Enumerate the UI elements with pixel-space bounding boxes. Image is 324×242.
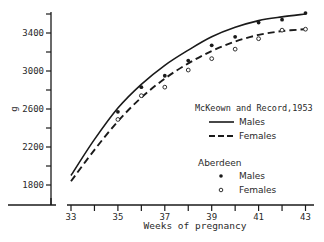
- x-axis-title: Weeks of pregnancy: [144, 220, 247, 231]
- legend-mckeown-females-label: Females: [239, 131, 277, 141]
- mckeown-males-curve: [71, 14, 306, 176]
- y-tick-label: 2600: [22, 104, 44, 114]
- x-axis: 333537394143 Weeks of pregnancy: [66, 205, 314, 231]
- x-tick-label: 35: [112, 212, 123, 222]
- aberdeen-females-point: [163, 85, 167, 89]
- x-tick-label: 43: [300, 212, 311, 222]
- birthweight-chart: 18002200260030003400 g 333537394143 Week…: [0, 0, 324, 242]
- plot-area: [71, 11, 307, 181]
- y-axis-unit-label: g: [9, 106, 19, 111]
- legend: McKeown and Record,1953 Males Females Ab…: [195, 103, 313, 195]
- legend-aberdeen-females-label: Females: [239, 185, 277, 195]
- aberdeen-males-point: [304, 11, 308, 15]
- aberdeen-males-point: [186, 59, 190, 63]
- y-axis: 18002200260030003400 g: [9, 12, 52, 205]
- legend-group-mckeown-title: McKeown and Record,1953: [195, 103, 313, 113]
- x-tick-label: 41: [253, 212, 264, 222]
- y-tick-label: 3400: [22, 28, 44, 38]
- aberdeen-males-point: [257, 21, 261, 25]
- aberdeen-females-point: [304, 27, 308, 31]
- legend-aberdeen-males-label: Males: [239, 171, 265, 181]
- aberdeen-males-point: [280, 18, 284, 22]
- aberdeen-females-point: [186, 68, 190, 72]
- aberdeen-males-point: [233, 35, 237, 39]
- aberdeen-females-point: [280, 28, 284, 32]
- x-tick-label: 33: [66, 212, 77, 222]
- aberdeen-males-point: [210, 43, 214, 47]
- y-axis-ticks: 18002200260030003400: [22, 14, 51, 190]
- aberdeen-females-point: [139, 94, 143, 98]
- aberdeen-females-point: [257, 37, 261, 41]
- aberdeen-females-point: [210, 57, 214, 61]
- aberdeen-females-point: [116, 118, 120, 122]
- axis-break: [8, 198, 56, 205]
- legend-open-circle-icon: [219, 188, 223, 192]
- y-tick-label: 2200: [22, 142, 44, 152]
- legend-mckeown-males-label: Males: [239, 117, 265, 127]
- aberdeen-males-point: [163, 74, 167, 78]
- aberdeen-males-point: [139, 85, 143, 89]
- aberdeen-males-point: [116, 110, 120, 114]
- y-tick-label: 1800: [22, 180, 44, 190]
- legend-filled-dot-icon: [219, 174, 223, 178]
- y-tick-label: 3000: [22, 66, 44, 76]
- legend-group-aberdeen-title: Aberdeen: [198, 158, 241, 168]
- aberdeen-females-point: [233, 47, 237, 51]
